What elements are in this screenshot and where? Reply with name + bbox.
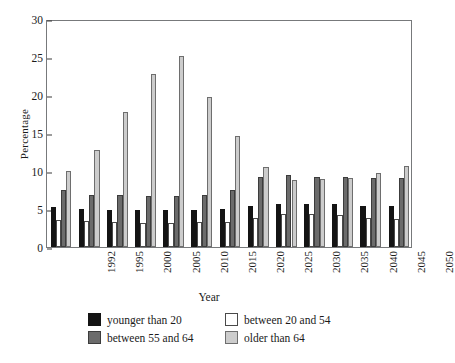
y-axis-tick-label: 20: [32, 91, 44, 103]
bar: [376, 173, 381, 247]
bar: [286, 175, 291, 247]
bar: [281, 214, 286, 247]
bar: [276, 204, 281, 247]
y-axis-tick-label: 10: [32, 167, 44, 179]
bar: [235, 136, 240, 247]
y-axis-title: Percentage: [18, 74, 30, 194]
bar-group: [107, 21, 128, 247]
y-axis-tick-label: 5: [37, 205, 43, 217]
x-axis-tick-label: 2000: [161, 251, 173, 291]
y-axis-tick-label: 0: [37, 243, 43, 255]
bar: [202, 195, 207, 247]
x-axis-tick-label: 2020: [274, 251, 286, 291]
bar: [94, 150, 99, 247]
bar: [123, 112, 128, 247]
legend-label: older than 64: [244, 332, 305, 344]
x-axis-tick-label: 2025: [302, 251, 314, 291]
legend-swatch-icon: [88, 331, 101, 344]
bar-group: [389, 21, 410, 247]
bar-group: [79, 21, 100, 247]
bar: [360, 206, 365, 247]
bar: [304, 204, 309, 247]
legend-item: older than 64: [225, 331, 348, 344]
bar-group: [276, 21, 297, 247]
x-axis-tick-label: 2050: [443, 251, 455, 291]
x-axis-tick-label: 2030: [330, 251, 342, 291]
bar: [292, 180, 297, 247]
bar: [389, 206, 394, 247]
bar: [399, 178, 404, 247]
bar: [197, 222, 202, 247]
bar: [320, 179, 325, 247]
bar: [220, 209, 225, 247]
bar-group: [360, 21, 381, 247]
x-axis-tick-label: 2035: [358, 251, 370, 291]
legend-label: younger than 20: [107, 314, 182, 326]
bar: [253, 218, 258, 247]
legend-swatch-icon: [225, 313, 238, 326]
x-axis-tick-label: 2010: [218, 251, 230, 291]
bar: [309, 214, 314, 247]
y-axis-tick-label: 25: [32, 53, 44, 65]
x-axis-title: Year: [0, 291, 418, 303]
bar: [366, 218, 371, 247]
legend-item: between 55 and 64: [88, 331, 211, 344]
bar: [112, 222, 117, 247]
y-axis-tick-mark: [47, 249, 52, 250]
bar: [404, 166, 409, 247]
bar: [174, 196, 179, 247]
y-axis-tick-label: 15: [32, 129, 44, 141]
bar-group: [332, 21, 353, 247]
legend-item: younger than 20: [88, 313, 211, 326]
x-axis-tick-label: 2045: [415, 251, 427, 291]
bar: [207, 97, 212, 247]
bar: [258, 177, 263, 247]
bar: [337, 215, 342, 247]
bar: [66, 171, 71, 247]
bar: [248, 206, 253, 247]
bar-group: [220, 21, 241, 247]
bar: [314, 177, 319, 247]
bar: [89, 195, 94, 247]
bar: [140, 223, 145, 247]
bar-group: [163, 21, 184, 247]
bar: [371, 178, 376, 247]
bar-group: [135, 21, 156, 247]
legend-swatch-icon: [88, 313, 101, 326]
bar: [146, 196, 151, 247]
bar: [107, 210, 112, 247]
bar: [84, 221, 89, 247]
bar: [51, 207, 56, 247]
bar-group: [51, 21, 72, 247]
plot-area: 051015202530: [46, 20, 412, 248]
bar: [163, 210, 168, 247]
bar: [332, 204, 337, 247]
chart-legend: younger than 20between 20 and 54between …: [88, 313, 348, 344]
bar: [61, 190, 66, 247]
bar-group: [248, 21, 269, 247]
bar: [117, 195, 122, 247]
bar: [394, 219, 399, 247]
bar: [263, 167, 268, 247]
y-axis-tick-label: 30: [32, 15, 44, 27]
bar-group: [191, 21, 212, 247]
bar: [191, 210, 196, 247]
bar: [230, 190, 235, 247]
bar: [168, 223, 173, 247]
legend-item: between 20 and 54: [225, 313, 348, 326]
bar-group: [304, 21, 325, 247]
x-axis-tick-label: 2015: [246, 251, 258, 291]
x-axis-tick-label: 2040: [387, 251, 399, 291]
legend-swatch-icon: [225, 331, 238, 344]
bar: [151, 74, 156, 247]
x-axis-tick-label: 1992: [105, 251, 117, 291]
legend-label: between 55 and 64: [107, 332, 194, 344]
bar: [79, 209, 84, 247]
x-axis-tick-label: 2005: [190, 251, 202, 291]
bar: [56, 220, 61, 247]
bar: [225, 222, 230, 247]
x-axis-tick-label: 1995: [133, 251, 145, 291]
legend-label: between 20 and 54: [244, 314, 331, 326]
bar: [348, 178, 353, 247]
